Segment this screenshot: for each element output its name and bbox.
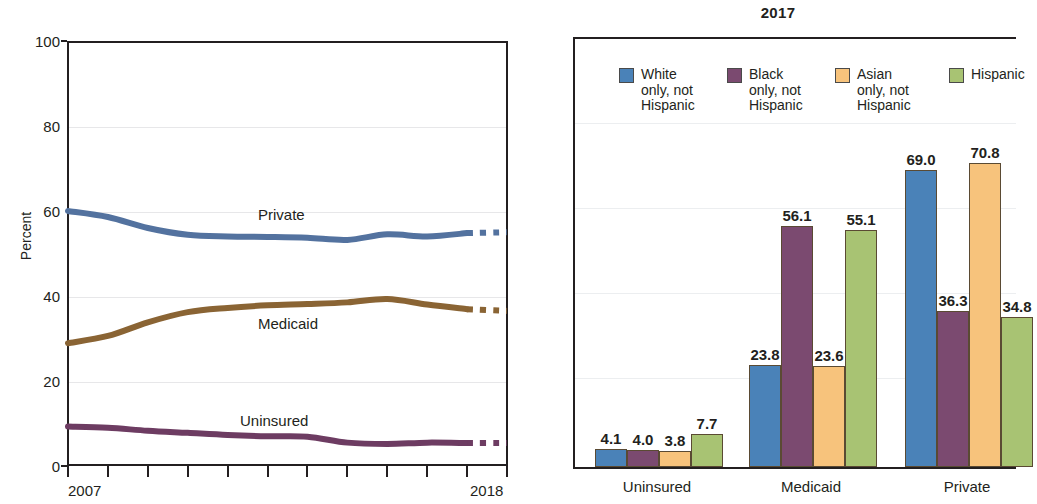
legend-label-3: Hispanic xyxy=(971,67,1025,83)
x-tick-mark-2010 xyxy=(187,466,189,477)
legend: White only, not HispanicBlack only, not … xyxy=(619,67,1037,131)
bar-value-medicaid-3: 55.1 xyxy=(839,211,883,228)
legend-swatch-icon-3 xyxy=(949,68,964,83)
bar-value-uninsured-3: 7.7 xyxy=(685,415,729,432)
bar-medicaid-3[interactable] xyxy=(845,230,877,467)
legend-item-1[interactable]: Black only, not Hispanic xyxy=(727,67,803,114)
chart-title-2017: 2017 xyxy=(540,4,1016,21)
bar-value-medicaid-1: 56.1 xyxy=(775,207,819,224)
x-tick-mark-2008 xyxy=(107,466,109,477)
bar-uninsured-1[interactable] xyxy=(627,450,659,467)
x-tick-label-2007: 2007 xyxy=(68,482,101,499)
legend-item-0[interactable]: White only, not Hispanic xyxy=(619,67,695,114)
x-tick-label-2018: 2018 xyxy=(470,482,503,499)
group-label-medicaid: Medicaid xyxy=(727,478,895,495)
right-plot-area: White only, not HispanicBlack only, not … xyxy=(573,37,1016,469)
x-tick-mark-2009 xyxy=(147,466,149,477)
left-line-chart-panel: Percent 0 20 40 60 80 100 Private Medica… xyxy=(0,0,540,504)
series-label-medicaid: Medicaid xyxy=(258,315,318,332)
legend-label-2: Asian only, not Hispanic xyxy=(857,67,911,114)
line-uninsured xyxy=(68,426,467,443)
bar-private-3[interactable] xyxy=(1001,317,1033,467)
series-label-uninsured: Uninsured xyxy=(240,412,308,429)
line-dashed-private xyxy=(467,232,507,233)
bar-private-0[interactable] xyxy=(905,170,937,467)
x-tick-mark-2013 xyxy=(306,466,308,477)
bar-uninsured-3[interactable] xyxy=(691,434,723,467)
x-tick-mark-2016 xyxy=(426,466,428,477)
legend-label-0: White only, not Hispanic xyxy=(641,67,695,114)
bar-private-1[interactable] xyxy=(937,311,969,467)
legend-swatch-icon-2 xyxy=(835,68,850,83)
legend-swatch-icon-1 xyxy=(727,68,742,83)
bar-value-private-2: 70.8 xyxy=(963,144,1007,161)
legend-label-1: Black only, not Hispanic xyxy=(749,67,803,114)
legend-swatch-icon-0 xyxy=(619,68,634,83)
group-label-uninsured: Uninsured xyxy=(573,478,741,495)
x-tick-mark-2011 xyxy=(227,466,229,477)
x-tick-mark-2012 xyxy=(267,466,269,477)
x-tick-mark-2014 xyxy=(346,466,348,477)
series-label-private: Private xyxy=(258,206,305,223)
bar-value-private-0: 69.0 xyxy=(899,151,943,168)
bar-value-private-3: 34.8 xyxy=(995,298,1037,315)
x-tick-mark-2007 xyxy=(67,466,69,477)
legend-item-2[interactable]: Asian only, not Hispanic xyxy=(835,67,911,114)
x-tick-mark-2017 xyxy=(466,466,468,477)
bar-medicaid-0[interactable] xyxy=(749,365,781,467)
group-label-private: Private xyxy=(883,478,1037,495)
x-tick-mark-2015 xyxy=(386,466,388,477)
bar-uninsured-0[interactable] xyxy=(595,449,627,467)
line-dashed-medicaid xyxy=(467,309,507,311)
legend-item-3[interactable]: Hispanic xyxy=(949,67,1025,83)
bar-medicaid-2[interactable] xyxy=(813,366,845,467)
bar-uninsured-2[interactable] xyxy=(659,451,691,467)
right-bar-chart-panel: 2017 White only, not HispanicBlack only,… xyxy=(540,0,1016,504)
x-tick-mark-2018 xyxy=(506,466,508,477)
